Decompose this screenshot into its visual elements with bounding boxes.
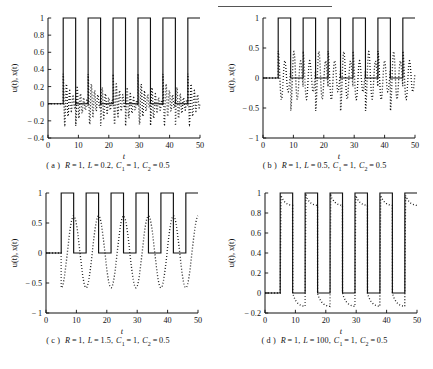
x-tick-label: 40 [380, 141, 388, 150]
x-tick-label: 30 [135, 141, 143, 150]
series-u-t [265, 193, 417, 293]
x-tick-label: 0 [262, 316, 266, 325]
subplot-b: 01020304050− 1− 0.500.51tu(t), x(t) ( b … [216, 10, 433, 185]
caption-tag-a: ( a ) [46, 161, 60, 170]
y-tick-label: − 1 [248, 134, 258, 143]
y-tick-label: 1 [38, 189, 42, 198]
x-tick-label: 10 [289, 141, 297, 150]
y-tick-label: 0.5 [32, 219, 42, 228]
x-tick-label: 30 [350, 141, 358, 150]
y-tick-label: 0.8 [34, 31, 44, 40]
chart-d: 01020304050− 0.200.20.40.60.81tu(t), x(t… [225, 185, 425, 335]
subplot-grid: 01020304050− 0.4− 0.200.20.40.60.81tu(t)… [0, 10, 433, 369]
series-u-t [46, 193, 198, 253]
subplot-a: 01020304050− 0.4− 0.200.20.40.60.81tu(t)… [0, 10, 216, 185]
series-x-t [263, 51, 415, 111]
x-tick-label: 50 [412, 316, 420, 325]
y-tick-label: 0.6 [34, 48, 44, 57]
x-axis-title: t [337, 152, 340, 161]
y-tick-label: − 0.5 [26, 279, 43, 288]
series-x-t [265, 194, 417, 307]
y-axis-title: u(t), x(t) [10, 239, 19, 268]
y-tick-label: 0 [38, 249, 42, 258]
x-tick-label: 20 [319, 141, 327, 150]
subplot-d: 01020304050− 0.200.20.40.60.81tu(t), x(t… [216, 185, 433, 359]
y-tick-label: 0 [256, 289, 260, 298]
series-x-t [46, 216, 198, 288]
caption-c: ( c )R = 1, L = 1.5, C1 = 1, C2 = 0.5 [46, 336, 169, 347]
y-tick-label: 1 [254, 14, 258, 23]
plot-area-b: 01020304050− 1− 0.500.51tu(t), x(t) [216, 10, 433, 160]
y-tick-label: 0.2 [34, 83, 44, 92]
y-tick-label: 0.5 [248, 44, 258, 53]
y-tick-label: 1 [40, 14, 44, 23]
plot-area-c: 01020304050− 1− 0.500.51tu(t), x(t) [0, 185, 216, 335]
y-tick-label: 0.6 [250, 229, 260, 238]
chart-b: 01020304050− 1− 0.500.51tu(t), x(t) [225, 10, 425, 160]
y-tick-label: 0.4 [34, 65, 44, 74]
x-axis-title: t [121, 327, 124, 336]
series-u-t [263, 18, 415, 78]
caption-tag-b: ( b ) [263, 161, 277, 170]
caption-tag-c: ( c ) [46, 336, 60, 345]
y-tick-label: 0 [254, 74, 258, 83]
y-tick-label: 0.4 [250, 249, 260, 258]
x-tick-label: 10 [74, 141, 82, 150]
figure-panel-grid: 01020304050− 0.4− 0.200.20.40.60.81tu(t)… [0, 0, 433, 369]
caption-tag-d: ( d ) [262, 336, 276, 345]
y-tick-label: 1 [256, 189, 260, 198]
y-tick-label: − 0.2 [244, 309, 261, 318]
x-tick-label: 40 [382, 316, 390, 325]
series-x-t [48, 74, 200, 126]
x-tick-label: 50 [196, 141, 204, 150]
x-tick-label: 0 [46, 141, 50, 150]
x-tick-label: 20 [105, 141, 113, 150]
y-tick-label: 0 [40, 100, 44, 109]
x-tick-label: 40 [164, 316, 172, 325]
x-tick-label: 20 [321, 316, 329, 325]
x-tick-label: 50 [194, 316, 202, 325]
x-axis-title: t [123, 152, 126, 161]
y-tick-label: − 0.4 [28, 134, 45, 143]
y-tick-label: − 0.2 [28, 117, 45, 126]
x-tick-label: 30 [133, 316, 141, 325]
chart-c: 01020304050− 1− 0.500.51tu(t), x(t) [8, 185, 208, 335]
caption-a: ( a )R = 1, L = 0.2, C1 = 1, C2 = 0.5 [46, 161, 169, 172]
caption-b: ( b )R = 1, L = 0.5, C1 = 1, C2 = 0.5 [263, 161, 387, 172]
subplot-c: 01020304050− 1− 0.500.51tu(t), x(t) ( c … [0, 185, 216, 359]
x-tick-label: 40 [166, 141, 174, 150]
top-horizontal-rule [218, 6, 332, 7]
plot-area-a: 01020304050− 0.4− 0.200.20.40.60.81tu(t)… [0, 10, 216, 160]
caption-d: ( d )R = 1, L = 100, C1 = 1, C2 = 0.5 [262, 336, 388, 347]
plot-area-d: 01020304050− 0.200.20.40.60.81tu(t), x(t… [216, 185, 433, 335]
y-tick-label: − 0.5 [242, 104, 259, 113]
x-tick-label: 0 [44, 316, 48, 325]
y-tick-label: 0.8 [250, 209, 260, 218]
y-axis-title: u(t), x(t) [227, 239, 236, 268]
x-tick-label: 0 [260, 141, 264, 150]
y-axis-title: u(t), x(t) [227, 64, 236, 93]
y-tick-label: − 1 [32, 309, 42, 318]
x-tick-label: 30 [352, 316, 360, 325]
x-tick-label: 20 [103, 316, 111, 325]
x-tick-label: 50 [410, 141, 418, 150]
y-axis-title: u(t), x(t) [10, 64, 19, 93]
x-axis-title: t [339, 327, 342, 336]
x-tick-label: 10 [72, 316, 80, 325]
y-tick-label: 0.2 [250, 269, 260, 278]
x-tick-label: 10 [291, 316, 299, 325]
chart-a: 01020304050− 0.4− 0.200.20.40.60.81tu(t)… [8, 10, 208, 160]
